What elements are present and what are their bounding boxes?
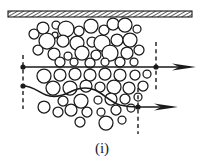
particle-circle <box>58 96 68 106</box>
particle-circle <box>53 107 63 117</box>
particle-circle <box>58 21 74 37</box>
upper-flow-arrow <box>156 63 196 70</box>
particle-circle <box>75 117 85 127</box>
particle-circle <box>46 81 60 95</box>
particle-circle <box>38 101 50 113</box>
particle-circle <box>70 58 78 66</box>
streamline-node-marker <box>153 64 158 69</box>
particle-circle <box>134 45 144 55</box>
particle-circle <box>74 26 84 36</box>
particle-circle <box>111 105 121 115</box>
particle-circle <box>84 69 96 81</box>
particle-circle <box>75 46 89 60</box>
particle-circle <box>101 58 109 66</box>
particle-circle <box>99 68 111 80</box>
particle-circle <box>29 29 39 39</box>
particle-circle <box>130 58 138 66</box>
particle-circle <box>97 108 105 116</box>
particle-circle <box>114 69 126 81</box>
particle-circle <box>54 69 66 81</box>
particle-circle <box>120 94 130 104</box>
particle-circle <box>123 82 135 94</box>
particle-circle <box>138 81 148 91</box>
figure-caption: (i) <box>95 140 109 157</box>
particle-circle <box>57 35 69 47</box>
streamline-node-marker <box>135 104 140 109</box>
particle-circle <box>69 68 81 80</box>
particle-circle <box>84 19 98 33</box>
particle-circle <box>55 57 65 67</box>
streamline-node-marker <box>20 83 25 88</box>
particle-circle <box>107 80 121 94</box>
particle-circle <box>37 69 51 83</box>
particle-circle <box>127 104 135 112</box>
particle-circle <box>82 107 92 117</box>
particle-circle <box>118 18 132 32</box>
particle-circle <box>63 81 77 95</box>
wall-hatched-band <box>8 11 192 17</box>
particle-circle <box>143 70 151 78</box>
particle-circle <box>107 18 119 30</box>
particle-circle <box>33 45 43 55</box>
particle-circle <box>111 34 123 46</box>
particle-circle <box>115 57 125 67</box>
particle-circle <box>80 80 92 92</box>
particle-circle <box>94 96 102 104</box>
particle-bed <box>29 18 151 130</box>
particle-circle <box>65 104 77 116</box>
particle-circle <box>130 70 140 80</box>
particle-circle <box>99 116 113 130</box>
particle-circle <box>123 33 137 47</box>
rigid-wall <box>8 11 192 17</box>
particle-circle <box>133 25 141 33</box>
lower-flow-arrow <box>138 103 178 110</box>
figure-container: (i) <box>0 0 204 161</box>
streamline-node-marker <box>20 64 25 69</box>
particle-circle <box>118 116 126 124</box>
packed-bed-flow-diagram: (i) <box>0 0 204 161</box>
